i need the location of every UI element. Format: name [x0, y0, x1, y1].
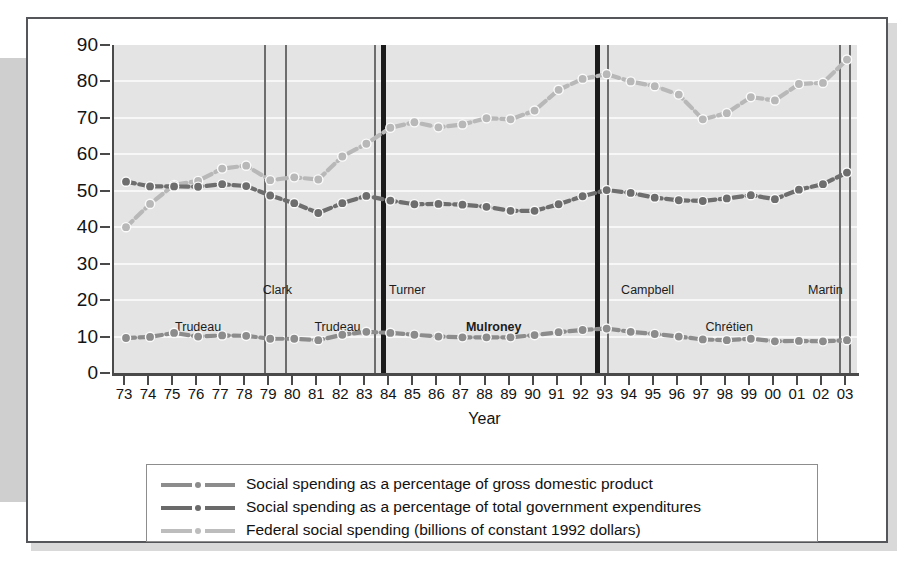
x-axis-tick-label: 85	[404, 385, 421, 402]
x-axis-tick-mark	[700, 376, 702, 385]
data-point-marker	[242, 162, 250, 170]
x-axis-tick-mark	[484, 376, 486, 385]
x-axis-tick-label: 94	[620, 385, 637, 402]
x-axis-tick-label: 95	[644, 385, 661, 402]
data-point-marker	[146, 333, 154, 341]
x-axis-tick-mark	[435, 376, 437, 385]
data-point-marker	[459, 201, 467, 209]
data-point-marker	[579, 192, 587, 200]
x-axis-tick-mark	[532, 376, 534, 385]
data-point-marker	[266, 192, 274, 200]
x-axis-tick-label: 86	[428, 385, 445, 402]
x-axis-tick-mark	[580, 376, 582, 385]
y-axis-tick-label: 40	[77, 216, 98, 238]
data-point-marker	[435, 123, 443, 131]
x-axis-tick-mark	[291, 376, 293, 385]
data-point-marker	[819, 337, 827, 345]
data-point-marker	[723, 195, 731, 203]
x-axis-tick-mark	[315, 376, 317, 385]
data-point-marker	[819, 180, 827, 188]
x-axis-tick-mark	[628, 376, 630, 385]
data-point-marker	[843, 169, 851, 177]
data-point-marker	[507, 207, 515, 215]
data-point-marker	[362, 192, 370, 200]
y-axis-tick-mark	[100, 117, 110, 119]
data-point-marker	[122, 223, 130, 231]
data-point-marker	[146, 183, 154, 191]
data-point-marker	[675, 91, 683, 99]
data-point-marker	[242, 182, 250, 190]
data-point-marker	[194, 333, 202, 341]
data-point-marker	[819, 79, 827, 87]
data-point-marker	[338, 153, 346, 161]
data-point-marker	[290, 335, 298, 343]
x-axis-tick-mark	[604, 376, 606, 385]
data-point-marker	[843, 56, 851, 64]
data-point-marker	[771, 195, 779, 203]
x-axis-tick-mark	[363, 376, 365, 385]
x-axis-tick-label: 81	[308, 385, 325, 402]
x-axis-tick-mark	[676, 376, 678, 385]
data-point-marker	[531, 107, 539, 115]
data-point-marker	[507, 333, 515, 341]
figure-frame: 9080706050403020100 TrudeauClarkTrudeauT…	[26, 17, 888, 543]
data-point-marker	[314, 176, 322, 184]
x-axis-tick-mark	[796, 376, 798, 385]
x-axis-tick-mark	[123, 376, 125, 385]
data-point-marker	[194, 183, 202, 191]
x-axis-tick-label: 79	[260, 385, 277, 402]
data-point-marker	[555, 328, 563, 336]
legend-item: Federal social spending (billions of con…	[161, 519, 817, 541]
legend-swatch-segment	[205, 529, 235, 533]
x-axis-tick-mark	[748, 376, 750, 385]
x-axis-tick-label: 01	[789, 385, 806, 402]
data-point-marker	[555, 200, 563, 208]
data-point-marker	[603, 70, 611, 78]
data-point-marker	[507, 115, 515, 123]
data-point-marker	[266, 335, 274, 343]
y-axis-tick-label: 20	[77, 289, 98, 311]
x-axis-tick-label: 91	[548, 385, 565, 402]
x-axis-tick-label: 03	[837, 385, 854, 402]
left-margin-band	[0, 58, 27, 502]
data-point-marker	[242, 332, 250, 340]
legend-line-swatch	[161, 502, 235, 513]
x-axis-tick-mark	[219, 376, 221, 385]
data-point-marker	[771, 337, 779, 345]
data-point-marker	[170, 329, 178, 337]
data-point-marker	[603, 186, 611, 194]
x-axis-tick-mark	[844, 376, 846, 385]
x-axis-tick-mark	[171, 376, 173, 385]
data-point-marker	[170, 183, 178, 191]
data-point-marker	[795, 186, 803, 194]
data-point-marker	[122, 334, 130, 342]
data-point-marker	[314, 336, 322, 344]
y-axis-tick-mark	[100, 153, 110, 155]
data-point-marker	[795, 80, 803, 88]
x-axis-tick-mark	[411, 376, 413, 385]
x-axis-tick-label: 73	[116, 385, 133, 402]
y-axis-tick-mark	[100, 44, 110, 46]
legend-item: Social spending as a percentage of total…	[161, 496, 817, 518]
y-axis-tick-mark	[100, 372, 110, 374]
x-axis-tick-label: 00	[765, 385, 782, 402]
x-axis-tick-label: 88	[476, 385, 493, 402]
data-point-marker	[338, 199, 346, 207]
y-axis-tick-mark	[100, 299, 110, 301]
y-axis-tick-label: 30	[77, 253, 98, 275]
data-point-marker	[699, 336, 707, 344]
data-point-marker	[459, 121, 467, 129]
data-point-marker	[651, 82, 659, 90]
data-point-marker	[483, 114, 491, 122]
legend-label: Federal social spending (billions of con…	[246, 521, 641, 539]
data-point-marker	[386, 329, 394, 337]
x-axis-tick-mark	[508, 376, 510, 385]
legend-swatch-segment	[161, 483, 192, 487]
legend-swatch-marker	[195, 482, 201, 488]
y-axis-tick-mark	[100, 80, 110, 82]
legend-label: Social spending as a percentage of gross…	[246, 475, 653, 493]
x-axis-tick-label: 90	[524, 385, 541, 402]
y-axis-tick-label: 90	[77, 34, 98, 56]
data-point-marker	[266, 176, 274, 184]
y-axis-tick-label: 70	[77, 107, 98, 129]
